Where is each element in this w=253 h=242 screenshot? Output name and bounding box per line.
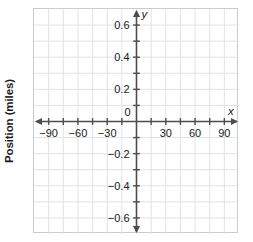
y-axis-title: Position (miles) — [0, 0, 18, 242]
y-tick-label: −0.6 — [108, 212, 130, 224]
x-tick-label: −30 — [98, 127, 117, 139]
x-tick-label: −90 — [39, 127, 58, 139]
axis-lines — [34, 9, 239, 234]
x-tick-label: 30 — [160, 127, 172, 139]
y-tick-label: −0.2 — [108, 148, 130, 160]
x-tick-label: −60 — [69, 127, 88, 139]
x-axis-name: x — [228, 105, 234, 117]
y-tick-label: 0.4 — [114, 51, 129, 63]
plot-area: −90−60−303060900.60.40.2−0.2−0.4−0.60xy — [33, 8, 238, 233]
y-tick-label: 0.6 — [114, 19, 129, 31]
y-tick-label: −0.4 — [108, 180, 130, 192]
x-tick-label: 60 — [189, 127, 201, 139]
y-tick-label: 0.2 — [114, 83, 129, 95]
y-axis-name: y — [142, 8, 148, 20]
origin-label: 0 — [124, 106, 130, 118]
coordinate-grid-figure: Position (miles) −90−60−303060900.60.40.… — [0, 0, 253, 242]
x-tick-label: 90 — [218, 127, 230, 139]
